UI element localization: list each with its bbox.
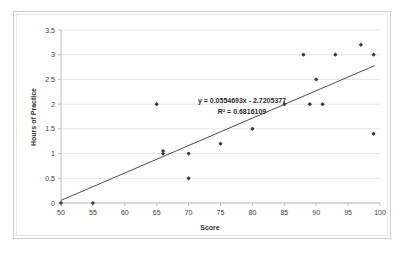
data-point-center xyxy=(187,177,190,180)
y-axis-tick-labels: 00.511.522.533.5 xyxy=(45,27,55,207)
x-tick-label: 95 xyxy=(344,209,352,216)
data-point-center xyxy=(372,53,375,56)
gridlines xyxy=(61,30,380,203)
x-tick-label: 100 xyxy=(374,209,386,216)
y-axis-title: Hours of Practice xyxy=(30,88,37,146)
x-tick-label: 90 xyxy=(312,209,320,216)
y-tick-label: 1 xyxy=(51,150,55,157)
trendline-equation-label: y = 0.0554693x - 2.7205377 xyxy=(198,97,286,105)
data-point-center xyxy=(155,103,158,106)
x-tick-label: 80 xyxy=(249,209,257,216)
x-axis-tick-labels: 50556065707580859095100 xyxy=(57,209,386,216)
y-tick-label: 2 xyxy=(51,101,55,108)
data-point-center xyxy=(302,53,305,56)
data-point-center xyxy=(334,53,337,56)
y-tick-label: 1.5 xyxy=(45,125,55,132)
data-point-center xyxy=(372,133,375,136)
data-point-center xyxy=(219,142,222,145)
trendline-path xyxy=(61,65,375,200)
y-tick-label: 0 xyxy=(51,200,55,207)
data-point-center xyxy=(60,202,63,205)
x-tick-label: 65 xyxy=(153,209,161,216)
trendline-r2-label: R² = 0.6816109 xyxy=(218,108,267,115)
data-point-center xyxy=(92,202,95,205)
data-point-center xyxy=(360,44,363,47)
y-tick-label: 3.5 xyxy=(45,27,55,34)
x-tick-label: 50 xyxy=(57,209,65,216)
axes xyxy=(61,30,380,203)
x-tick-label: 60 xyxy=(121,209,129,216)
x-tick-label: 75 xyxy=(217,209,225,216)
data-point-center xyxy=(251,128,254,131)
y-tick-label: 2.5 xyxy=(45,76,55,83)
x-tick-label: 85 xyxy=(280,209,288,216)
data-point-center xyxy=(315,78,318,81)
y-tick-label: 0.5 xyxy=(45,175,55,182)
x-tick-label: 70 xyxy=(185,209,193,216)
data-point-center xyxy=(321,103,324,106)
x-tick-label: 55 xyxy=(89,209,97,216)
scatter-plot: 00.511.522.533.5 50556065707580859095100… xyxy=(14,12,390,238)
data-point-center xyxy=(187,152,190,155)
x-axis-title: Score xyxy=(200,224,220,231)
data-point-center xyxy=(309,103,312,106)
data-point-center xyxy=(162,150,165,153)
y-tick-label: 3 xyxy=(51,51,55,58)
chart-frame: 00.511.522.533.5 50556065707580859095100… xyxy=(13,11,391,239)
trendline xyxy=(61,65,375,200)
tick-marks xyxy=(58,30,380,206)
